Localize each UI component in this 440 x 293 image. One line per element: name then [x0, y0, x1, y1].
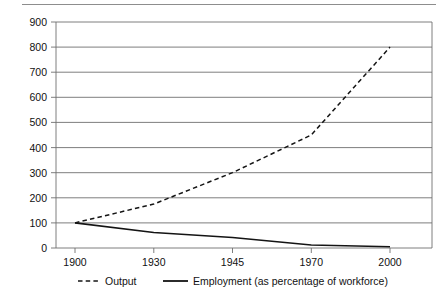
- y-axis-tick-labels: 900 800 700 600 500 400 300 200 100 0: [29, 16, 47, 254]
- x-tick-marks: [75, 248, 390, 253]
- x-tick-label-2000: 2000: [378, 256, 402, 268]
- legend-label-employment: Employment (as percentage of workforce): [193, 275, 388, 287]
- x-axis-tick-labels: 1900 1930 1945 1970 2000: [63, 256, 402, 268]
- x-tick-label-1970: 1970: [300, 256, 324, 268]
- y-tick-label-300: 300: [29, 167, 47, 179]
- y-tick-label-500: 500: [29, 116, 47, 128]
- y-gridlines: [56, 22, 432, 223]
- y-tick-label-800: 800: [29, 41, 47, 53]
- y-tick-label-100: 100: [29, 217, 47, 229]
- series-line-output: [75, 47, 390, 223]
- y-tick-label-0: 0: [41, 242, 47, 254]
- chart-svg: 900 800 700 600 500 400 300 200 100 0 19…: [0, 0, 440, 293]
- y-tick-label-400: 400: [29, 142, 47, 154]
- x-tick-label-1945: 1945: [221, 256, 245, 268]
- x-tick-label-1900: 1900: [63, 256, 87, 268]
- y-tick-label-700: 700: [29, 66, 47, 78]
- chart-legend: Output Employment (as percentage of work…: [78, 275, 388, 287]
- y-tick-label-600: 600: [29, 91, 47, 103]
- y-tick-marks: [51, 22, 56, 248]
- chart-figure: 900 800 700 600 500 400 300 200 100 0 19…: [0, 0, 440, 293]
- x-tick-label-1930: 1930: [142, 256, 166, 268]
- series-line-employment: [75, 223, 390, 247]
- y-tick-label-200: 200: [29, 192, 47, 204]
- y-tick-label-900: 900: [29, 16, 47, 28]
- legend-label-output: Output: [105, 275, 137, 287]
